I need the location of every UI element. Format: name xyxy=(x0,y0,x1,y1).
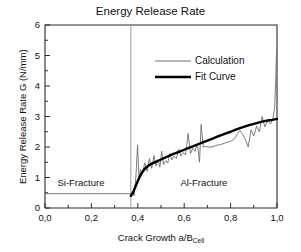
x-axis-tick-label: 0,2 xyxy=(76,213,106,223)
legend-label-calculation: Calculation xyxy=(195,56,244,66)
x-axis-label-subscript: Cell xyxy=(193,237,204,244)
legend-label-fit-curve: Fit Curve xyxy=(195,72,236,82)
y-axis-tick-label: 0 xyxy=(20,203,40,213)
x-axis-label: Crack Growth a/BCell xyxy=(45,233,277,244)
x-axis-tick-label: 0,8 xyxy=(216,213,246,223)
legend-swatch-fit-curve xyxy=(155,71,191,83)
chart-title: Energy Release Rate xyxy=(0,6,301,18)
y-axis-tick-label: 4 xyxy=(20,81,40,91)
x-axis-tick-label: 1,0 xyxy=(262,213,292,223)
x-axis-tick-label: 0,0 xyxy=(30,213,60,223)
y-axis-tick-label: 5 xyxy=(20,51,40,61)
y-axis-tick-label: 2 xyxy=(20,142,40,152)
legend-swatch-calculation xyxy=(155,55,191,67)
annotation-al-fracture: Al-Fracture xyxy=(180,178,227,188)
x-axis-tick-label: 0,6 xyxy=(169,213,199,223)
y-axis-tick-label: 6 xyxy=(20,20,40,30)
chart-figure: Energy Release Rate Energy Release Rate … xyxy=(0,0,301,252)
x-axis-label-main: Crack Growth a/B xyxy=(118,232,193,243)
y-axis-tick-label: 3 xyxy=(20,112,40,122)
annotation-si-fracture: Si-Fracture xyxy=(57,178,104,188)
y-axis-tick-label: 1 xyxy=(20,173,40,183)
x-axis-tick-label: 0,4 xyxy=(123,213,153,223)
